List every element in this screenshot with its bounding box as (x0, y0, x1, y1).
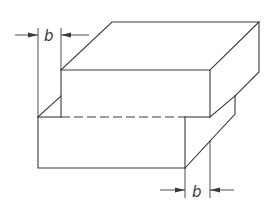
dimension-label-b: b (44, 27, 54, 45)
upper-block-top-face (61, 22, 259, 70)
offset-blocks-diagram: b b (0, 0, 278, 213)
upper-block (61, 22, 259, 117)
lower-block-top-left-edge (38, 96, 61, 117)
lower-block-front-face (38, 117, 185, 168)
dimension-top-left: b (15, 27, 89, 45)
dimension-label-b: b (192, 183, 202, 201)
dimension-bottom-right: b (160, 183, 234, 201)
arrow-left-icon (61, 33, 71, 38)
upper-block-front-face (61, 70, 210, 117)
extension-lines (38, 28, 210, 198)
lower-block-right-back-edge (210, 96, 235, 141)
arrow-left-icon (210, 188, 220, 193)
lower-block (38, 96, 235, 168)
arrow-right-icon (28, 33, 38, 38)
lower-block-bottom-right-edge (185, 141, 210, 168)
arrow-right-icon (175, 188, 185, 193)
lower-block-top-right-edge (210, 96, 235, 117)
